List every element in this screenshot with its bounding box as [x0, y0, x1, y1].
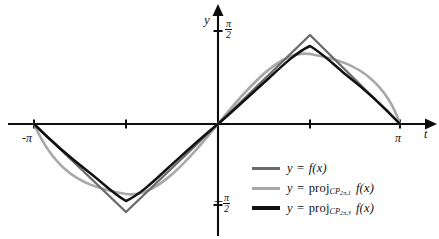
- legend-item-proj-first: y = projCP2π,1f(x): [252, 178, 437, 198]
- legend-lhs: y: [287, 201, 293, 215]
- legend-equals: =: [296, 201, 305, 215]
- legend-swatch-proj-first: [252, 187, 280, 190]
- legend-arg: f(x): [356, 201, 374, 215]
- legend-item-f: y = f(x): [252, 158, 437, 178]
- minus-sign: −: [214, 193, 223, 210]
- legend-equals: =: [296, 161, 305, 175]
- legend-proj-operator: proj: [309, 201, 330, 215]
- legend-subscript-space: CP2π,1: [330, 187, 351, 196]
- legend-arg: f(x): [356, 181, 374, 195]
- legend-subscript-index: 2π,1: [340, 189, 351, 196]
- legend-subscript-main: CP: [330, 187, 340, 196]
- legend-subscript-space: CP2π,3: [330, 207, 351, 216]
- legend-lhs: y: [287, 161, 293, 175]
- legend-subscript-main: CP: [330, 207, 340, 216]
- legend-lhs: y: [287, 181, 293, 195]
- x-tick-label-neg-pi: -π: [22, 131, 32, 146]
- fraction-neg-pi-half: π 2: [223, 193, 230, 214]
- fraction-denominator: 2: [225, 30, 232, 40]
- legend-swatch-proj-third: [252, 206, 280, 210]
- legend-item-proj-third: y = projCP2π,3f(x): [252, 198, 437, 218]
- x-tick-label-pi: π: [395, 131, 401, 146]
- legend-swatch-f: [252, 167, 280, 170]
- legend-label-f: y = f(x): [287, 161, 327, 176]
- y-axis-arrow-icon: [213, 4, 224, 16]
- x-axis-label: t: [424, 127, 427, 142]
- y-tick-label-pi-half: π 2: [225, 19, 232, 40]
- legend-subscript-index: 2π,3: [340, 209, 351, 216]
- legend-proj-operator: proj: [309, 181, 330, 195]
- legend-label-proj-third: y = projCP2π,3f(x): [287, 201, 374, 216]
- y-tick-label-neg-pi-half: − π 2: [214, 193, 230, 214]
- legend-label-proj-first: y = projCP2π,1f(x): [287, 181, 374, 196]
- legend: y = f(x) y = projCP2π,1f(x) y = projCP2π…: [252, 158, 437, 218]
- legend-equals: =: [296, 181, 305, 195]
- y-axis-label: y: [204, 12, 210, 28]
- fraction-pi-half: π 2: [225, 19, 232, 40]
- legend-arg: (x): [312, 161, 326, 175]
- figure-container: y t -π π π 2 − π 2 y = f(x) y =: [0, 0, 439, 239]
- fraction-denominator: 2: [223, 204, 230, 214]
